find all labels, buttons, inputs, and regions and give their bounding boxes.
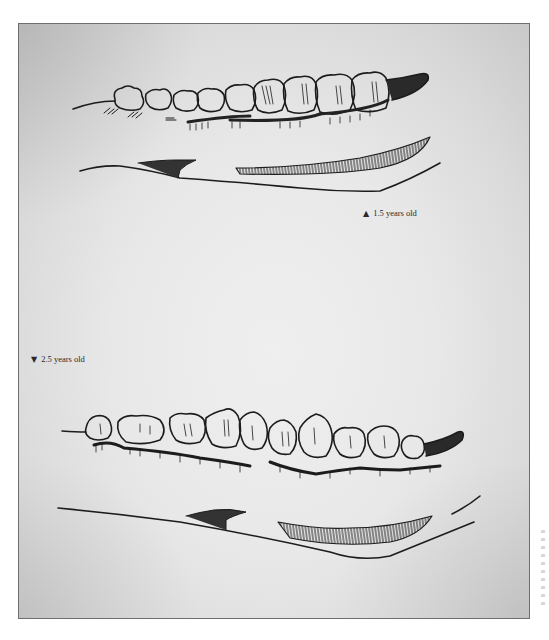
tooth (316, 74, 355, 114)
tooth (86, 416, 112, 440)
tooth (299, 414, 333, 457)
jaw-outline (452, 496, 480, 514)
gum-line (62, 431, 86, 432)
caption-text: 1.5 years old (373, 208, 417, 218)
tooth (240, 412, 268, 449)
tooth-root (424, 432, 463, 456)
caption-2-5-years: ▼ 2.5 years old (31, 354, 85, 364)
tooth (226, 85, 256, 112)
gum-hatching (94, 443, 440, 478)
jaw-shading (278, 516, 432, 544)
tooth (114, 86, 143, 110)
caption-1-5-years: ▲ 1.5 years old (363, 208, 417, 218)
tooth (368, 426, 400, 458)
triangle-down-icon: ▼ (31, 355, 37, 364)
jaw-drawing-1-5-years (73, 72, 440, 191)
scan-edge-marks (541, 530, 545, 610)
tooth (118, 416, 164, 444)
tooth (173, 91, 198, 112)
gum-line (73, 101, 115, 109)
jaw-shading (186, 509, 246, 530)
jaw-shading (236, 137, 430, 174)
tooth (197, 89, 224, 112)
tooth-root (386, 74, 428, 100)
tooth (206, 409, 241, 448)
tooth (146, 89, 172, 110)
tooth (254, 79, 286, 113)
tooth (401, 436, 424, 459)
jaw-drawing-2-5-years (58, 409, 480, 558)
tooth (284, 76, 318, 113)
tooth (170, 414, 206, 444)
triangle-up-icon: ▲ (363, 209, 369, 218)
teeth-sketch (0, 0, 549, 640)
caption-text: 2.5 years old (41, 354, 85, 364)
tooth (334, 428, 366, 458)
